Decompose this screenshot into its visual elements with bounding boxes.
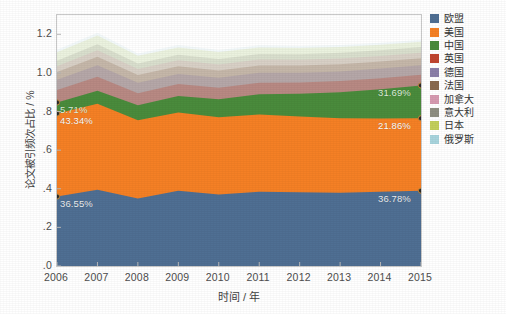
series-data-label: 43.34% [60, 115, 93, 126]
y-axis-tick-label: .0 [24, 260, 52, 270]
y-axis-tick-label: 1.2 [24, 28, 52, 38]
legend-item-label: 法国 [444, 80, 464, 91]
legend-item[interactable]: 意大利 [430, 106, 504, 119]
data-point-marker [418, 188, 421, 193]
x-axis-tick-label: 2015 [397, 271, 443, 283]
legend-item[interactable]: 中国 [430, 39, 504, 52]
series-data-label: 5.71% [60, 104, 87, 115]
x-axis-tick-label: 2009 [154, 271, 200, 283]
legend-item[interactable]: 日本 [430, 119, 504, 132]
legend-item[interactable]: 法国 [430, 79, 504, 92]
legend-swatch-icon [430, 108, 439, 117]
legend-swatch-icon [430, 54, 439, 63]
series-data-label: 21.86% [378, 120, 411, 131]
legend-swatch-icon [430, 81, 439, 90]
x-axis-tick-label: 2011 [235, 271, 281, 283]
legend-swatch-icon [430, 135, 439, 144]
x-axis-title: 时间 / 年 [56, 288, 422, 304]
legend-item[interactable]: 英国 [430, 52, 504, 65]
legend-item[interactable]: 美国 [430, 25, 504, 38]
legend-swatch-icon [430, 28, 439, 37]
legend-item-label: 欧盟 [444, 13, 464, 24]
legend-item-label: 俄罗斯 [444, 134, 474, 145]
y-axis-title: 论文被引频次占比 / % [22, 55, 37, 225]
legend-item[interactable]: 俄罗斯 [430, 133, 504, 146]
x-axis-tick-label: 2007 [73, 271, 119, 283]
legend-swatch-icon [430, 121, 439, 130]
stacked-area-chart: 1.21.0.8.6.4.2.0 论文被引频次占比 / % 2006200720… [0, 0, 506, 314]
legend-item-label: 美国 [444, 27, 464, 38]
x-axis-tick-label: 2013 [316, 271, 362, 283]
legend-item[interactable]: 欧盟 [430, 12, 504, 25]
legend: 欧盟美国中国英国德国法国加拿大意大利日本俄罗斯 [430, 12, 504, 146]
legend-item-label: 加拿大 [444, 94, 474, 105]
data-point-marker [418, 83, 421, 88]
legend-item[interactable]: 加拿大 [430, 92, 504, 105]
legend-swatch-icon [430, 41, 439, 50]
legend-item-label: 英国 [444, 53, 464, 64]
legend-item-label: 德国 [444, 67, 464, 78]
legend-item-label: 意大利 [444, 107, 474, 118]
x-axis-tick-label: 2012 [276, 271, 322, 283]
legend-swatch-icon [430, 14, 439, 23]
series-data-label: 36.55% [60, 198, 93, 209]
data-point-marker [418, 116, 421, 121]
legend-item-label: 中国 [444, 40, 464, 51]
legend-swatch-icon [430, 68, 439, 77]
series-data-label: 31.69% [378, 87, 411, 98]
plot-area [56, 14, 422, 267]
x-axis-tick-label: 2006 [33, 271, 79, 283]
series-data-label: 36.78% [378, 193, 411, 204]
legend-swatch-icon [430, 95, 439, 104]
x-axis-tick-label: 2010 [195, 271, 241, 283]
legend-item[interactable]: 德国 [430, 66, 504, 79]
plot-inner [57, 15, 421, 266]
marker-overlay-group [57, 15, 421, 266]
legend-item-label: 日本 [444, 120, 464, 131]
x-axis-tick-label: 2008 [114, 271, 160, 283]
x-axis-tick-label: 2014 [357, 271, 403, 283]
